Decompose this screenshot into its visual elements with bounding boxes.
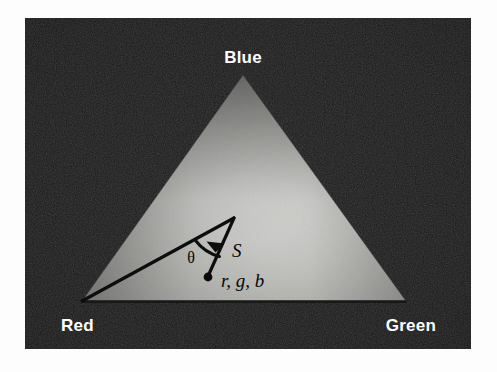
- rgb-triangle-figure: Blue Red Green θ S r, g, b: [0, 0, 497, 372]
- saturation-label-s: S: [232, 240, 242, 261]
- angle-label-theta: θ: [187, 249, 195, 266]
- vertex-label-green: Green: [386, 316, 436, 335]
- vertex-label-red: Red: [61, 316, 94, 335]
- vertex-label-blue: Blue: [224, 48, 262, 67]
- rgb-sample-point: [204, 273, 213, 282]
- figure-container: Blue Red Green θ S r, g, b: [0, 0, 497, 372]
- point-label-rgb: r, g, b: [221, 270, 264, 291]
- triangle-baseline-shadow: [82, 300, 406, 303]
